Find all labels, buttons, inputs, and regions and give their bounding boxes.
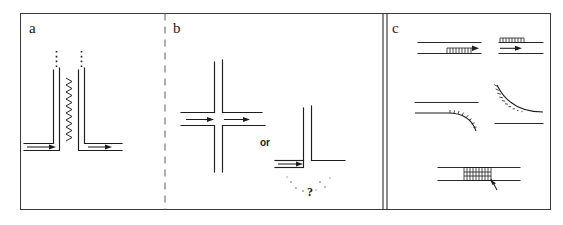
c4-curved-upper-wall	[497, 85, 543, 112]
panel-a-left-channel	[24, 48, 60, 151]
c5-hatched-block	[464, 168, 491, 181]
tee-inflow-arrow	[278, 162, 303, 167]
panel-b-cross-intersection	[181, 60, 265, 172]
panel-label-b: b	[173, 20, 181, 36]
panel-c-item-2	[499, 38, 543, 54]
c2-flow-arrow	[500, 46, 522, 51]
panel-b-or-label: or	[260, 137, 270, 148]
c3-curved-lower-wall	[415, 113, 476, 131]
c2-hatched-layer	[500, 38, 524, 43]
panel-label-c: c	[392, 20, 399, 36]
panel-b-question-label: ?	[307, 185, 313, 199]
figure-svg: a b c	[0, 0, 563, 225]
panel-c-item-3	[415, 103, 478, 132]
cross-outflow-arrow	[224, 117, 250, 122]
panel-c-item-4	[494, 85, 543, 124]
panel-a-left-flow-arrow	[27, 144, 56, 149]
left-channel-outer-wall	[24, 68, 60, 151]
panel-c-item-5	[438, 168, 520, 191]
left-flow-arrowhead	[49, 144, 56, 149]
panel-a-spring-coupling	[66, 78, 72, 141]
cross-inflow-arrow	[186, 117, 214, 122]
figure-container: a b c	[0, 0, 563, 225]
c1-hatched-layer	[447, 48, 474, 54]
panel-c-content	[415, 38, 543, 190]
c1-arrowhead	[472, 46, 479, 51]
panel-a-right-flow-arrow	[88, 144, 112, 149]
left-channel-inner-wall	[24, 70, 54, 144]
panel-a-right-channel	[79, 48, 123, 151]
right-channel-outer-wall	[85, 68, 123, 144]
panel-c-item-1	[418, 43, 481, 54]
right-flow-arrowhead	[105, 144, 112, 149]
panel-b-content: or	[181, 60, 345, 199]
panel-a-content	[24, 48, 122, 151]
panel-b-tee-junction	[275, 106, 345, 168]
panel-label-a: a	[29, 20, 36, 36]
